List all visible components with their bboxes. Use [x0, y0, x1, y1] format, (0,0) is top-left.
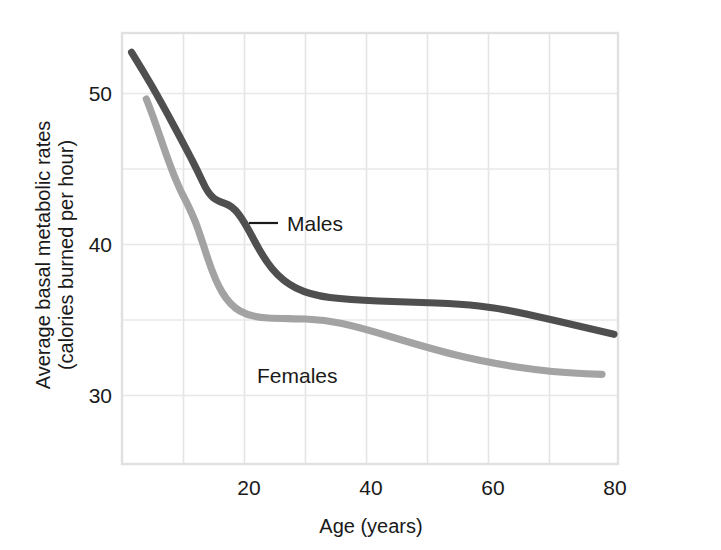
x-axis-title: Age (years)	[319, 515, 422, 537]
chart-figure: Males Females 50 40 30 20 40 60 80 Age (…	[0, 0, 721, 550]
y-axis-title-line2: (calories burned per hour)	[55, 140, 77, 370]
males-annotation-label: Males	[287, 212, 343, 235]
females-annotation-label: Females	[257, 364, 338, 387]
x-tick-label-20: 20	[237, 476, 260, 499]
y-tick-label-50: 50	[89, 82, 112, 105]
plot-background	[122, 33, 618, 464]
y-tick-label-40: 40	[89, 233, 112, 256]
x-tick-label-40: 40	[359, 476, 382, 499]
y-tick-label-30: 30	[89, 384, 112, 407]
x-tick-label-80: 80	[603, 476, 626, 499]
y-axis-title-line1: Average basal metabolic rates	[32, 121, 54, 390]
metabolic-rate-line-chart: Males Females 50 40 30 20 40 60 80 Age (…	[0, 0, 721, 550]
x-tick-label-60: 60	[481, 476, 504, 499]
